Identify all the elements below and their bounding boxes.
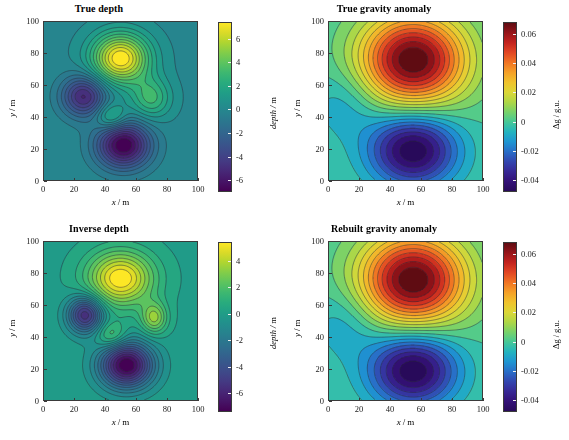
x-tick-label: 20 — [355, 404, 364, 414]
y-tick-label: 40 — [19, 332, 39, 342]
x-axis-var: x — [112, 417, 116, 427]
y-tick-label: 100 — [304, 16, 324, 26]
y-axis-unit: m — [292, 99, 302, 106]
colorbar-tick-mark — [513, 92, 516, 93]
colorbar-rebuilt-gravity-anomaly — [503, 242, 517, 412]
y-tick-mark — [329, 117, 332, 118]
colorbar-tick-mark — [228, 86, 231, 87]
colorbar-tick-mark — [228, 367, 231, 368]
colorbar-true-gravity-anomaly — [503, 22, 517, 192]
y-tick-label: 40 — [304, 112, 324, 122]
x-tick-label: 80 — [163, 404, 172, 414]
colorbar-tick-label: -2 — [236, 128, 243, 138]
x-tick-mark — [136, 398, 137, 401]
x-tick-mark — [421, 398, 422, 401]
x-tick-mark — [105, 178, 106, 181]
y-tick-mark — [44, 337, 47, 338]
y-tick-label: 60 — [19, 80, 39, 90]
colorbar-tick-label: -2 — [236, 335, 243, 345]
colorbar-axis-label: Δg/g.u. — [551, 100, 561, 129]
y-tick-mark — [44, 305, 47, 306]
colorbar-tick-label: 4 — [236, 256, 240, 266]
colorbar-axis-label: depth/m — [268, 97, 278, 129]
x-tick-label: 40 — [101, 404, 110, 414]
y-tick-label: 0 — [304, 396, 324, 406]
y-axis-unit: m — [7, 99, 17, 106]
y-tick-label: 40 — [304, 332, 324, 342]
y-axis-label: y/m — [292, 99, 302, 117]
colorbar-tick-mark — [513, 63, 516, 64]
panel-true-depth: True depth020406080100020406080100x/my/m… — [0, 0, 284, 220]
y-tick-label: 100 — [19, 236, 39, 246]
panel-inverse-depth: Inverse depth020406080100020406080100x/m… — [0, 220, 284, 440]
colorbar-tick-label: 2 — [236, 81, 240, 91]
x-axis-var: x — [397, 417, 401, 427]
y-axis-unit: m — [292, 319, 302, 326]
colorbar-tick-label: -4 — [236, 362, 243, 372]
x-tick-mark — [452, 178, 453, 181]
colorbar-var: depth — [268, 110, 278, 129]
x-tick-mark — [359, 398, 360, 401]
y-axis-label: y/m — [7, 99, 17, 117]
y-axis-label: y/m — [292, 319, 302, 337]
colorbar-unit: g.u. — [551, 100, 561, 113]
colorbar-tick-label: 4 — [236, 57, 240, 67]
axis-sep: / — [551, 115, 561, 117]
contour-lines — [44, 242, 197, 400]
x-tick-label: 80 — [448, 184, 457, 194]
colorbar-var: Δg — [551, 119, 561, 129]
x-tick-label: 60 — [417, 184, 426, 194]
y-tick-mark — [329, 273, 332, 274]
colorbar-tick-mark — [228, 287, 231, 288]
x-tick-label: 20 — [355, 184, 364, 194]
y-tick-label: 80 — [304, 268, 324, 278]
colorbar-true-depth — [218, 22, 232, 192]
x-tick-mark — [390, 398, 391, 401]
colorbar-tick-label: -0.02 — [521, 366, 539, 376]
y-tick-mark — [329, 401, 332, 402]
colorbar-tick-mark — [513, 254, 516, 255]
y-tick-mark — [44, 241, 47, 242]
x-tick-mark — [359, 178, 360, 181]
colorbar-axis-label: depth/m — [268, 317, 278, 349]
y-tick-mark — [329, 21, 332, 22]
x-tick-label: 0 — [41, 404, 45, 414]
colorbar-tick-label: 0.02 — [521, 307, 536, 317]
x-tick-label: 100 — [192, 404, 205, 414]
y-tick-label: 20 — [19, 144, 39, 154]
y-tick-label: 60 — [19, 300, 39, 310]
y-tick-mark — [44, 53, 47, 54]
y-tick-label: 40 — [19, 112, 39, 122]
y-tick-label: 80 — [19, 268, 39, 278]
x-tick-mark — [421, 178, 422, 181]
y-tick-label: 80 — [304, 48, 324, 58]
axis-sep: / — [403, 197, 406, 207]
panel-title: Rebuilt gravity anomaly — [285, 223, 569, 234]
y-tick-mark — [44, 181, 47, 182]
colorbar-unit: m — [268, 317, 278, 324]
y-tick-mark — [44, 369, 47, 370]
x-tick-label: 100 — [192, 184, 205, 194]
y-tick-mark — [329, 181, 332, 182]
axis-sep: / — [7, 328, 17, 331]
colorbar-tick-mark — [513, 151, 516, 152]
colorbar-tick-mark — [228, 133, 231, 134]
x-axis-label: x/m — [112, 417, 130, 427]
colorbar-tick-mark — [513, 180, 516, 181]
x-tick-label: 100 — [477, 404, 490, 414]
y-tick-mark — [44, 149, 47, 150]
colorbar-tick-mark — [228, 340, 231, 341]
y-axis-var: y — [7, 113, 17, 117]
x-tick-label: 40 — [101, 184, 110, 194]
x-tick-mark — [483, 398, 484, 401]
colorbar-tick-mark — [228, 180, 231, 181]
axis-sep: / — [292, 328, 302, 331]
y-tick-label: 60 — [304, 80, 324, 90]
colorbar-tick-label: 0.04 — [521, 278, 536, 288]
x-tick-mark — [390, 178, 391, 181]
x-tick-mark — [167, 398, 168, 401]
y-axis-unit: m — [7, 319, 17, 326]
colorbar-tick-mark — [228, 39, 231, 40]
contour-lines — [44, 22, 197, 180]
contour-lines — [329, 22, 482, 180]
